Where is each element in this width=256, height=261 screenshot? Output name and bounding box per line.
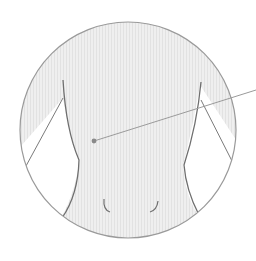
location-marker-icon: [92, 139, 97, 144]
torso-illustration: [0, 0, 256, 261]
